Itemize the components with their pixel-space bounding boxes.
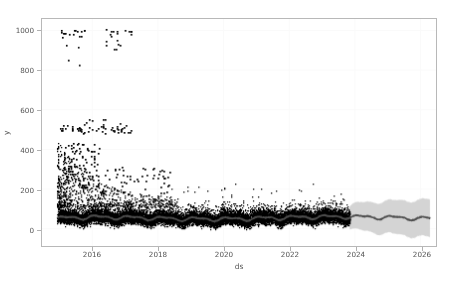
xtick-mark: [356, 247, 357, 251]
ytick-mark: [37, 70, 41, 71]
xtick-label: 2016: [83, 250, 101, 259]
axes-decorations: 1000 800 600 400 200 0 2016 2018 2020 20…: [0, 0, 457, 282]
xtick-label: 2018: [149, 250, 167, 259]
xtick-label: 2024: [347, 250, 365, 259]
xtick-mark: [92, 247, 93, 251]
xtick-mark: [158, 247, 159, 251]
ytick-label: 200: [8, 186, 34, 195]
ytick-mark: [37, 110, 41, 111]
x-axis-title: ds: [235, 262, 244, 271]
ytick-label: 800: [8, 66, 34, 75]
xtick-label: 2022: [281, 250, 299, 259]
ytick-mark: [37, 230, 41, 231]
ytick-mark: [37, 150, 41, 151]
ytick-mark: [37, 190, 41, 191]
ytick-mark: [37, 30, 41, 31]
xtick-mark: [290, 247, 291, 251]
ytick-label: 600: [8, 106, 34, 115]
y-axis-title: y: [2, 131, 11, 135]
ytick-label: 0: [8, 226, 34, 235]
xtick-label: 2026: [413, 250, 431, 259]
ytick-label: 1000: [8, 26, 34, 35]
ytick-label: 400: [8, 146, 34, 155]
prophet-forecast-figure: 1000 800 600 400 200 0 2016 2018 2020 20…: [0, 0, 457, 282]
xtick-label: 2020: [215, 250, 233, 259]
xtick-mark: [224, 247, 225, 251]
xtick-mark: [422, 247, 423, 251]
